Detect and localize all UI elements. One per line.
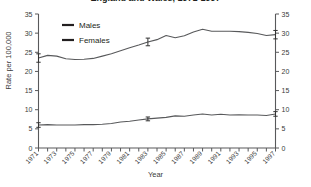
y-tick-label-right: 20: [282, 68, 290, 75]
x-tick-label: 1971: [24, 150, 40, 166]
x-tick-label: 1993: [224, 150, 240, 166]
x-tick-label: 1995: [243, 150, 259, 166]
x-tick-label: 1981: [115, 150, 131, 166]
x-tick-label: 1975: [60, 150, 76, 166]
x-tick-label: 1989: [188, 150, 204, 166]
x-tick-label: 1979: [97, 150, 113, 166]
y-tick-label-left: 30: [25, 30, 33, 37]
y-tick-label-left: 35: [25, 11, 33, 18]
x-tick-label: 1997: [261, 150, 277, 166]
y-tick-label-right: 35: [282, 11, 290, 18]
y-tick-label-left: 20: [25, 68, 33, 75]
series-line-females: [39, 114, 276, 125]
y-tick-label-left: 5: [29, 125, 33, 132]
legend-label-males: Males: [79, 21, 100, 30]
y-tick-label-right: 0: [282, 145, 286, 152]
y-tick-label-right: 30: [282, 30, 290, 37]
x-tick-label: 1983: [133, 150, 149, 166]
y-tick-label-right: 25: [282, 49, 290, 56]
y-tick-label-right: 5: [282, 125, 286, 132]
x-tick-label: 1985: [151, 150, 167, 166]
x-tick-label: 1991: [206, 150, 222, 166]
y-tick-label-left: 10: [25, 106, 33, 113]
y-tick-label-left: 25: [25, 49, 33, 56]
chart-canvas: 0055101015152020252530303535197119731975…: [0, 0, 311, 187]
chart-figure: England and Wales, 1971-1997 Rate per 10…: [0, 0, 311, 187]
x-tick-label: 1977: [79, 150, 95, 166]
y-tick-label-left: 15: [25, 87, 33, 94]
series-line-males: [39, 29, 276, 59]
y-tick-label-right: 15: [282, 87, 290, 94]
y-tick-label-left: 0: [29, 145, 33, 152]
x-tick-label: 1987: [170, 150, 186, 166]
y-tick-label-right: 10: [282, 106, 290, 113]
x-tick-label: 1973: [42, 150, 58, 166]
legend-label-females: Females: [79, 36, 110, 45]
